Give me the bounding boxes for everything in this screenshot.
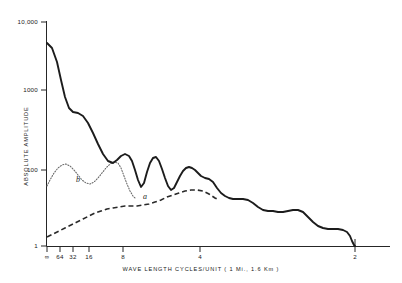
x-tick-label-64: 64 <box>56 253 64 260</box>
y-tick-marks <box>41 22 47 246</box>
x-tick-label-infinity: ∞ <box>45 253 50 260</box>
x-axis-title: WAVE LENGTH CYCLES/UNIT ( 1 Mi., 1.6 Km … <box>123 266 280 272</box>
y-tick-label-10000: 10,000 <box>18 18 39 25</box>
y-tick-label-1000: 1000 <box>23 86 38 93</box>
chart-figure: 10,000 1000 100 1 ∞ 64 32 16 8 4 2 WAVE … <box>0 0 402 283</box>
curve-label-a: a <box>143 192 147 201</box>
chart-canvas: 10,000 1000 100 1 ∞ 64 32 16 8 4 2 WAVE … <box>0 0 402 283</box>
x-tick-label-32: 32 <box>69 253 77 260</box>
y-axis-title: ABSOLUTE AMPLITUDE <box>23 106 29 185</box>
y-tick-label-1: 1 <box>34 242 38 249</box>
x-tick-label-16: 16 <box>85 253 93 260</box>
curve-b <box>47 162 136 199</box>
x-tick-label-8: 8 <box>121 253 125 260</box>
x-tick-label-4: 4 <box>198 253 202 260</box>
curve-a <box>47 190 219 237</box>
curve-total-spectrum <box>47 43 355 246</box>
curve-label-b: b <box>76 175 80 184</box>
x-tick-marks <box>47 239 355 252</box>
x-tick-label-2: 2 <box>353 253 357 260</box>
